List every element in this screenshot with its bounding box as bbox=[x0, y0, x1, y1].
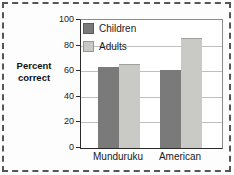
bar-chart-figure: Percent correct 020406080100 Children Ad… bbox=[0, 0, 234, 175]
y-tick-label-80: 80 bbox=[46, 40, 74, 50]
children-swatch-icon bbox=[83, 23, 94, 34]
legend-item-adults: Adults bbox=[83, 41, 136, 52]
y-tick-label-20: 20 bbox=[46, 116, 74, 126]
y-tick-label-40: 40 bbox=[46, 91, 74, 101]
adults-swatch-icon bbox=[83, 41, 94, 52]
y-tick-label-100: 100 bbox=[46, 14, 74, 24]
x-label-american: American bbox=[135, 151, 225, 162]
bar-munduruku-children bbox=[98, 67, 119, 148]
legend: Children Adults bbox=[83, 23, 136, 59]
bar-munduruku-adults bbox=[119, 64, 140, 148]
legend-item-children: Children bbox=[83, 23, 136, 34]
y-tick-label-0: 0 bbox=[46, 142, 74, 152]
legend-label-children: Children bbox=[99, 23, 136, 34]
bar-american-adults bbox=[181, 38, 202, 148]
legend-label-adults: Adults bbox=[99, 41, 127, 52]
bar-american-children bbox=[160, 70, 181, 148]
y-tick-label-60: 60 bbox=[46, 65, 74, 75]
plot-area: Children Adults bbox=[80, 19, 223, 149]
